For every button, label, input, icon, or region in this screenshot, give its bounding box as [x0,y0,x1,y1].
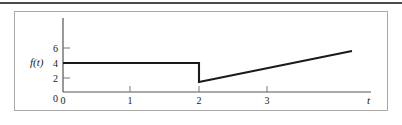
x-tick-label-1: 1 [123,95,137,106]
x-tick-label-2: 2 [192,95,206,106]
x-tick-label-0: 0 [56,95,70,106]
y-axis-label: f(t) [30,56,43,68]
x-axis-label: t [367,94,370,106]
figure-panel: f(t) t 6 4 2 0 0 1 2 3 [0,0,402,125]
y-tick-label-4: 4 [44,58,58,69]
x-tick-label-3: 3 [260,95,274,106]
y-tick-label-2: 2 [44,73,58,84]
function-curve [63,51,352,82]
y-tick-label-6: 6 [44,43,58,54]
chart-plot-area: f(t) t 6 4 2 0 0 1 2 3 [0,0,402,125]
chart-svg [0,0,402,125]
